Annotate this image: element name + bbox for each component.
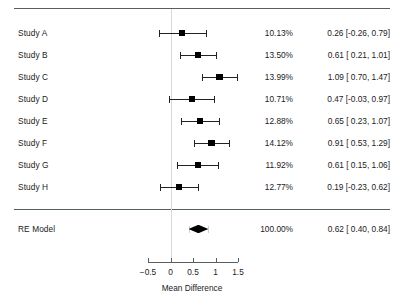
ci-cap-lower xyxy=(160,184,161,191)
x-axis-line xyxy=(148,262,238,263)
x-axis-tick xyxy=(171,258,172,262)
weight-value: 13.50% xyxy=(228,45,293,65)
x-axis-tick xyxy=(148,258,149,262)
study-label: Study C xyxy=(18,67,48,87)
point-estimate-marker xyxy=(176,184,182,190)
study-row: Study F14.12%0.91 [ 0.53, 1.29] xyxy=(0,133,398,153)
study-label: Study E xyxy=(18,111,48,131)
x-axis-tick-label: 1.5 xyxy=(223,267,253,277)
point-estimate-marker xyxy=(189,96,195,102)
point-estimate-marker xyxy=(179,30,185,36)
summary-diamond-marker xyxy=(189,225,209,233)
study-row: Study D10.71%0.47 [-0.03, 0.97] xyxy=(0,89,398,109)
estimate-value: 0.19 [-0.23, 0.62] xyxy=(299,177,390,197)
weight-value: 10.71% xyxy=(228,89,293,109)
x-axis-tick xyxy=(193,258,194,262)
point-estimate-marker xyxy=(195,162,201,168)
summary-label: RE Model xyxy=(18,219,55,239)
point-estimate-marker xyxy=(197,118,203,124)
estimate-value: 0.26 [-0.26, 0.79] xyxy=(299,23,390,43)
ci-cap-upper xyxy=(218,162,219,169)
top-rule xyxy=(14,8,390,9)
study-label: Study D xyxy=(18,89,48,109)
estimate-value: 0.61 [ 0.21, 1.01] xyxy=(299,45,390,65)
ci-cap-lower xyxy=(177,162,178,169)
point-estimate-marker xyxy=(216,74,223,81)
study-label: Study B xyxy=(18,45,48,65)
ci-cap-lower xyxy=(169,96,170,103)
summary-ci-cap-upper xyxy=(208,226,209,233)
ci-cap-upper xyxy=(229,140,230,147)
summary-separator-rule xyxy=(14,209,390,210)
study-label: Study G xyxy=(18,155,49,175)
summary-row-item: RE Model100.00%0.62 [ 0.40, 0.84] xyxy=(0,219,398,239)
weight-value: 11.92% xyxy=(228,155,293,175)
x-axis-tick xyxy=(216,258,217,262)
weight-value: 12.77% xyxy=(228,177,293,197)
ci-cap-upper xyxy=(206,30,207,37)
study-label: Study A xyxy=(18,23,47,43)
study-row: Study B13.50%0.61 [ 0.21, 1.01] xyxy=(0,45,398,65)
ci-cap-upper xyxy=(237,74,238,81)
x-axis-tick xyxy=(238,258,239,262)
study-label: Study H xyxy=(18,177,48,197)
estimate-value: 1.09 [ 0.70, 1.47] xyxy=(299,67,390,87)
x-axis-title: Mean Difference xyxy=(146,283,238,293)
estimate-value: 0.91 [ 0.53, 1.29] xyxy=(299,133,390,153)
study-row: Study E12.88%0.65 [ 0.23, 1.07] xyxy=(0,111,398,131)
weight-value: 12.88% xyxy=(228,111,293,131)
weight-value: 100.00% xyxy=(228,219,293,239)
estimate-value: 0.65 [ 0.23, 1.07] xyxy=(299,111,390,131)
ci-cap-lower xyxy=(194,140,195,147)
weight-value: 13.99% xyxy=(228,67,293,87)
ci-cap-lower xyxy=(159,30,160,37)
ci-cap-lower xyxy=(180,52,181,59)
ci-cap-upper xyxy=(216,52,217,59)
study-row: Study A10.13%0.26 [-0.26, 0.79] xyxy=(0,23,398,43)
ci-cap-upper xyxy=(214,96,215,103)
weight-value: 14.12% xyxy=(228,133,293,153)
forest-plot: Study A10.13%0.26 [-0.26, 0.79]Study B13… xyxy=(0,0,398,304)
estimate-value: 0.47 [-0.03, 0.97] xyxy=(299,89,390,109)
estimate-value: 0.62 [ 0.40, 0.84] xyxy=(299,219,390,239)
weight-value: 10.13% xyxy=(228,23,293,43)
ci-cap-upper xyxy=(219,118,220,125)
point-estimate-marker xyxy=(195,52,202,59)
study-row: Study H12.77%0.19 [-0.23, 0.62] xyxy=(0,177,398,197)
point-estimate-marker xyxy=(208,140,215,147)
estimate-value: 0.61 [ 0.15, 1.06] xyxy=(299,155,390,175)
study-row: Study C13.99%1.09 [ 0.70, 1.47] xyxy=(0,67,398,87)
ci-cap-lower xyxy=(202,74,203,81)
ci-cap-lower xyxy=(181,118,182,125)
study-label: Study F xyxy=(18,133,47,153)
study-row: Study G11.92%0.61 [ 0.15, 1.06] xyxy=(0,155,398,175)
ci-cap-upper xyxy=(198,184,199,191)
